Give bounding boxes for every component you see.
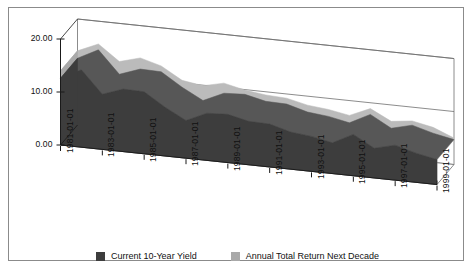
x-axis-tick-label: 1983-01-01: [106, 113, 116, 157]
chart-legend: Current 10-Year Yield Annual Total Retur…: [0, 251, 475, 261]
chart-container: 0.0010.0020.00 1981-01-011983-01-011985-…: [0, 0, 475, 278]
x-axis-tick-label: 1999-01-01: [441, 148, 451, 192]
y-axis-tick-label: 0.00: [36, 139, 53, 149]
y-axis-tick-label: 10.00: [31, 86, 53, 96]
x-axis-tick-label: 1991-01-01: [274, 130, 284, 174]
y-axis-tick-label: 20.00: [31, 33, 53, 43]
x-axis-tick-label: 1989-01-01: [232, 126, 242, 170]
x-axis-tick-label: 1997-01-01: [399, 144, 409, 188]
legend-item-annual-total-return-next-decade: Annual Total Return Next Decade: [231, 251, 379, 261]
legend-swatch-icon-light: [231, 252, 240, 261]
x-axis-tick-label: 1985-01-01: [148, 117, 158, 161]
legend-item-current-10-year-yield: Current 10-Year Yield: [96, 251, 197, 261]
x-axis-tick-label: 1993-01-01: [316, 135, 326, 179]
legend-label-current-10-year-yield: Current 10-Year Yield: [111, 251, 197, 261]
x-axis-tick-label: 1995-01-01: [357, 139, 367, 183]
x-axis-tick-label: 1987-01-01: [190, 122, 200, 166]
x-axis-tick-label: 1981-01-01: [65, 109, 75, 153]
legend-label-annual-total-return-next-decade: Annual Total Return Next Decade: [246, 251, 379, 261]
legend-swatch-icon-dark: [96, 252, 105, 261]
